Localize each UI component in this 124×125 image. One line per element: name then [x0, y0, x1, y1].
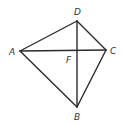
- kite-diagram: D A C F B: [0, 0, 124, 125]
- labels: D A C F B: [8, 7, 117, 122]
- label-C: C: [110, 46, 117, 56]
- label-B: B: [74, 112, 80, 122]
- label-A: A: [8, 47, 15, 57]
- segment-AC: [20, 50, 106, 51]
- edges: [20, 21, 106, 107]
- segment-AD: [20, 21, 77, 51]
- label-F: F: [66, 55, 72, 65]
- segment-DC: [77, 21, 106, 50]
- label-D: D: [74, 7, 81, 17]
- segment-CB: [77, 50, 106, 107]
